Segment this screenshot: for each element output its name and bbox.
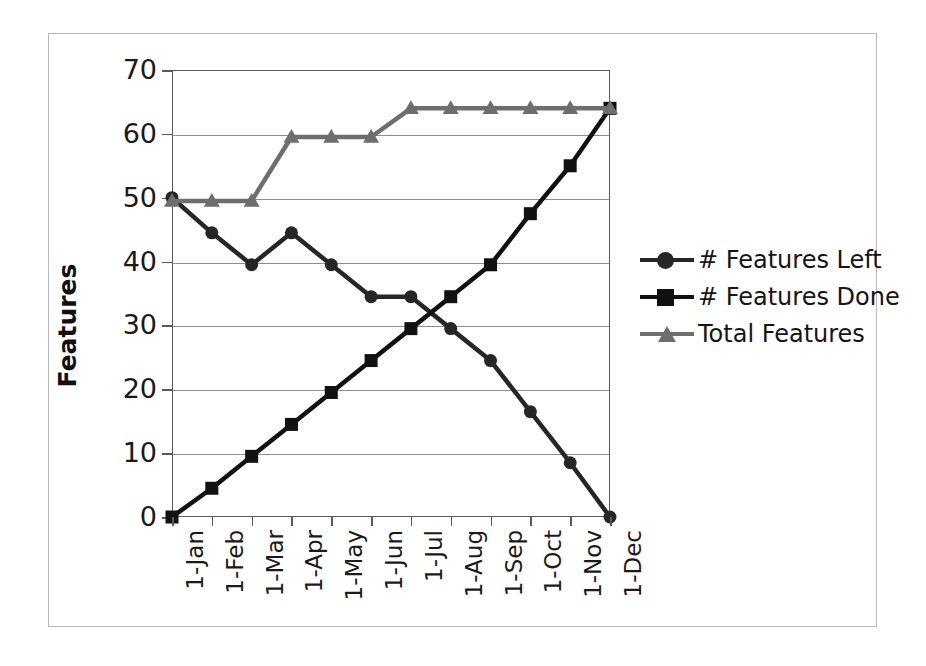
x-axis-tick-mark xyxy=(252,517,254,526)
x-axis-tick-label: 1-Jun xyxy=(382,530,406,650)
legend-circle-icon xyxy=(657,252,674,269)
x-axis-tick-label: 1-Jan xyxy=(183,530,207,650)
circle-marker xyxy=(564,456,577,469)
y-axis-title: Features xyxy=(48,215,88,435)
x-axis-tick-mark xyxy=(291,517,293,526)
y-axis-tick-mark xyxy=(162,453,172,455)
square-marker xyxy=(524,207,537,220)
x-axis-tick-label: 1-Apr xyxy=(302,530,326,650)
x-axis-tick-label: 1-Dec xyxy=(621,530,645,650)
legend-label: # Features Done xyxy=(698,283,900,311)
y-axis-tick-mark xyxy=(162,134,172,136)
series-line xyxy=(172,108,610,517)
legend-swatch xyxy=(640,284,694,310)
circle-marker xyxy=(484,354,497,367)
x-axis-tick-mark xyxy=(212,517,214,526)
circle-marker xyxy=(285,226,298,239)
y-axis-tick-label: 70 xyxy=(97,56,157,83)
legend-square-icon xyxy=(657,289,674,306)
x-axis-tick-label: 1-Jul xyxy=(422,530,446,650)
square-marker xyxy=(484,258,497,271)
y-axis-tick-label: 30 xyxy=(97,311,157,338)
square-marker xyxy=(444,290,457,303)
circle-marker xyxy=(325,258,338,271)
legend-item[interactable]: Total Features xyxy=(640,317,870,350)
x-axis-tick-mark xyxy=(530,517,532,526)
y-axis-tick-label: 0 xyxy=(97,503,157,530)
x-axis-tick-mark xyxy=(451,517,453,526)
x-axis-tick-label: 1-Aug xyxy=(462,530,486,650)
x-axis-tick-mark xyxy=(610,517,612,526)
y-axis-tick-label: 40 xyxy=(97,248,157,275)
y-axis-tick-mark xyxy=(162,70,172,72)
y-axis-tick-label: 10 xyxy=(97,439,157,466)
x-axis-tick-label: 1-Nov xyxy=(581,530,605,650)
legend-item[interactable]: # Features Done xyxy=(640,280,870,313)
x-axis-tick-mark xyxy=(491,517,493,526)
y-axis-tick-label: 50 xyxy=(97,184,157,211)
x-axis-tick-label: 1-Oct xyxy=(541,530,565,650)
circle-marker xyxy=(444,322,457,335)
series-features-done xyxy=(166,102,617,524)
y-axis-tick-labels: 010203040506070 xyxy=(95,70,157,517)
circle-marker xyxy=(524,405,537,418)
square-marker xyxy=(404,322,417,335)
x-axis-tick-label: 1-Feb xyxy=(223,530,247,650)
legend-label: Total Features xyxy=(698,320,865,348)
series-overlay xyxy=(172,70,610,517)
x-axis-tick-mark xyxy=(371,517,373,526)
y-axis-tick-mark xyxy=(162,325,172,327)
legend-triangle-icon xyxy=(658,326,676,342)
square-marker xyxy=(564,159,577,172)
square-marker xyxy=(285,418,298,431)
chart-container: Features 010203040506070 1-Jan1-Feb1-Mar… xyxy=(0,0,926,666)
y-axis-tick-label: 20 xyxy=(97,375,157,402)
chart-legend: # Features Left# Features DoneTotal Feat… xyxy=(640,243,870,354)
circle-marker xyxy=(245,258,258,271)
circle-marker xyxy=(205,226,218,239)
square-marker xyxy=(365,354,378,367)
series-line xyxy=(172,108,610,201)
square-marker xyxy=(245,450,258,463)
legend-label: # Features Left xyxy=(698,246,882,274)
legend-swatch xyxy=(640,247,694,273)
x-axis-tick-mark xyxy=(331,517,333,526)
y-axis-tick-mark xyxy=(162,262,172,264)
circle-marker xyxy=(365,290,378,303)
x-axis-tick-label: 1-May xyxy=(342,530,366,650)
x-axis-tick-label: 1-Mar xyxy=(263,530,287,650)
square-marker xyxy=(205,482,218,495)
x-axis-tick-mark xyxy=(172,517,174,526)
legend-swatch xyxy=(640,321,694,347)
circle-marker xyxy=(404,290,417,303)
y-axis-tick-label: 60 xyxy=(97,120,157,147)
x-axis-tick-mark xyxy=(411,517,413,526)
x-axis-tick-mark xyxy=(570,517,572,526)
square-marker xyxy=(325,386,338,399)
x-axis-tick-label: 1-Sep xyxy=(502,530,526,650)
y-axis-tick-mark xyxy=(162,389,172,391)
y-axis-title-text: Features xyxy=(54,263,83,387)
legend-item[interactable]: # Features Left xyxy=(640,243,870,276)
